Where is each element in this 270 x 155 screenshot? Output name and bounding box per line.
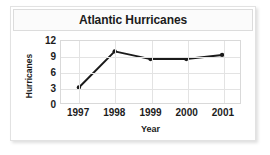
- chart-title: Atlantic Hurricanes: [79, 13, 187, 27]
- chart-figure: Atlantic Hurricanes Hurricanes 129630 19…: [0, 0, 270, 155]
- x-tick-label: 2000: [176, 108, 198, 118]
- y-tick-label: 12: [45, 36, 56, 46]
- gridline-vertical: [152, 41, 153, 103]
- y-axis-ticks: 129630: [36, 40, 58, 104]
- plot-area: [60, 40, 241, 104]
- gridline-vertical: [188, 41, 189, 103]
- x-tick-label: 1997: [67, 108, 89, 118]
- y-axis-title: Hurricanes: [22, 42, 36, 110]
- y-tick-label: 0: [50, 100, 56, 110]
- x-tick-label: 2001: [212, 108, 234, 118]
- x-axis-title: Year: [60, 124, 241, 134]
- gridline-vertical: [115, 41, 116, 103]
- y-tick-label: 3: [50, 84, 56, 94]
- gridline-vertical: [79, 41, 80, 103]
- x-tick-label: 1999: [139, 108, 161, 118]
- x-tick-label: 1998: [103, 108, 125, 118]
- x-axis-ticks: 19971998199920002001: [60, 108, 241, 122]
- y-tick-label: 6: [50, 68, 56, 78]
- y-tick-label: 9: [50, 52, 56, 62]
- gridline-horizontal: [61, 73, 240, 74]
- gridline-horizontal: [61, 57, 240, 58]
- series-line-hurricanes: [61, 41, 240, 103]
- y-axis-title-text: Hurricanes: [24, 54, 34, 98]
- gridline-vertical: [224, 41, 225, 103]
- chart-title-box: Atlantic Hurricanes: [13, 9, 253, 31]
- gridline-horizontal: [61, 89, 240, 90]
